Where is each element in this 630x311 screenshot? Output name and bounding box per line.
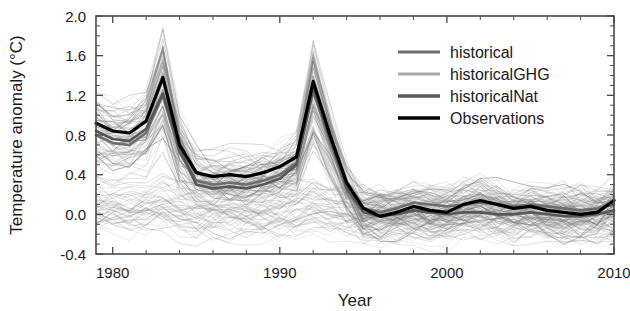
x-axis-title: Year (338, 291, 373, 310)
temperature-anomaly-line-chart: 1980199020002010 -0.40.00.40.81.21.62.0 … (0, 0, 630, 311)
y-tick-label: 0.8 (65, 127, 86, 144)
y-tick-label: 1.2 (65, 87, 86, 104)
y-tick-label: -0.4 (60, 246, 86, 263)
legend-label-observations: Observations (450, 110, 544, 127)
y-tick-label: 0.0 (65, 206, 86, 223)
legend-label-historical: historical (450, 44, 513, 61)
legend-label-historicalghg: historicalGHG (450, 66, 550, 83)
chart-figure: 1980199020002010 -0.40.00.40.81.21.62.0 … (0, 0, 630, 311)
x-tick-label: 2000 (430, 264, 463, 281)
x-tick-label: 1980 (96, 264, 129, 281)
y-axis-title: Temperature anomaly (°C) (7, 35, 26, 235)
y-tick-label: 2.0 (65, 8, 86, 25)
y-tick-label: 1.6 (65, 47, 86, 64)
y-tick-label: 0.4 (65, 166, 86, 183)
x-tick-label: 1990 (263, 264, 296, 281)
legend-label-historicalnat: historicalNat (450, 88, 539, 105)
x-tick-label: 2010 (597, 264, 630, 281)
